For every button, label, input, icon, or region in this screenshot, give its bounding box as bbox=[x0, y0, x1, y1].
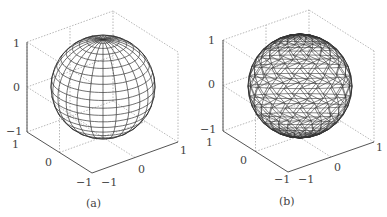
z-tick-1: 1 bbox=[13, 38, 20, 49]
x-tick-1: 1 bbox=[376, 142, 383, 153]
sphere-plot-a bbox=[0, 0, 193, 217]
y-tick-1: 1 bbox=[12, 139, 19, 150]
x-tick-minus1: −1 bbox=[101, 177, 117, 188]
z-tick-0: 0 bbox=[13, 82, 20, 93]
z-tick-minus1: −1 bbox=[6, 126, 22, 137]
z-tick-1: 1 bbox=[208, 35, 215, 46]
y-tick-minus1: −1 bbox=[76, 177, 92, 188]
y-tick-0: 0 bbox=[240, 155, 247, 166]
y-tick-1: 1 bbox=[206, 137, 213, 148]
y-tick-minus1: −1 bbox=[274, 174, 290, 185]
panel-a: 1 0 −1 1 0 −1 −1 0 1 (a) bbox=[0, 0, 193, 217]
x-tick-1: 1 bbox=[180, 145, 187, 156]
caption-a: (a) bbox=[86, 197, 101, 210]
panel-b: 1 0 −1 1 0 −1 −1 0 1 (b) bbox=[194, 0, 387, 217]
x-tick-0: 0 bbox=[334, 162, 341, 173]
z-tick-minus1: −1 bbox=[200, 124, 216, 135]
x-tick-minus1: −1 bbox=[298, 174, 314, 185]
caption-b: (b) bbox=[279, 195, 295, 208]
x-tick-0: 0 bbox=[138, 164, 145, 175]
z-tick-0: 0 bbox=[208, 79, 215, 90]
y-tick-0: 0 bbox=[45, 157, 52, 168]
sphere-plot-b bbox=[194, 0, 387, 217]
